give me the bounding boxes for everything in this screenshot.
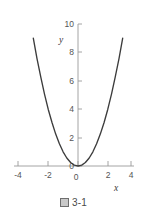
x-tick-label--4: -4 bbox=[14, 170, 22, 180]
y-tick-label-4: 4 bbox=[69, 104, 74, 114]
figure-container: -4 -2 0 2 4 0 2 4 6 8 10 y x 3-1 bbox=[0, 0, 147, 222]
y-axis-label: y bbox=[58, 35, 64, 45]
y-tick-label-10: 10 bbox=[65, 19, 75, 29]
x-axis-tick-labels: -4 -2 0 2 4 bbox=[14, 170, 133, 182]
y-tick-label-2: 2 bbox=[69, 133, 74, 143]
figure-caption-text: 3-1 bbox=[72, 197, 87, 208]
x-tick-label-0: 0 bbox=[74, 172, 79, 182]
x-tick-label-2: 2 bbox=[106, 170, 111, 180]
x-tick-label-4: 4 bbox=[129, 170, 134, 180]
x-axis-label: x bbox=[113, 183, 119, 193]
y-tick-label-8: 8 bbox=[69, 47, 74, 57]
y-axis-ticks bbox=[78, 24, 82, 166]
x-tick-label--2: -2 bbox=[44, 170, 52, 180]
y-tick-label-6: 6 bbox=[69, 76, 74, 86]
figure-caption: 3-1 bbox=[0, 196, 147, 222]
y-axis-tick-labels: 0 2 4 6 8 10 bbox=[65, 19, 75, 171]
missing-cjk-glyph-box-icon bbox=[60, 198, 69, 207]
parabola-chart-svg: -4 -2 0 2 4 0 2 4 6 8 10 y x bbox=[0, 0, 147, 196]
chart-plot-area: -4 -2 0 2 4 0 2 4 6 8 10 y x bbox=[0, 0, 147, 196]
